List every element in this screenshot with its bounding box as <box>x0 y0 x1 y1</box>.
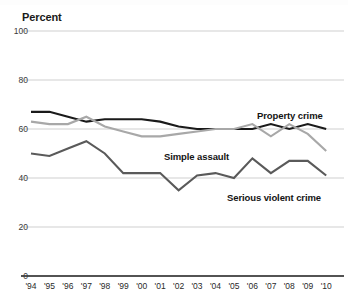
x-tick-label-08: '08 <box>279 282 299 291</box>
x-tick-label-98: '98 <box>95 282 115 291</box>
x-tick-label-05: '05 <box>224 282 244 291</box>
x-tick-label-03: '03 <box>187 282 207 291</box>
y-tick-label: 100 <box>6 27 28 36</box>
x-tick-label-94: '94 <box>21 282 41 291</box>
series-label-property-crime: Property crime <box>257 110 323 121</box>
x-tick-label-07: '07 <box>261 282 281 291</box>
series-label-simple-assault: Simple assault <box>164 151 229 162</box>
y-tick-label: 0 <box>6 272 28 281</box>
series-label-serious-violent-crime: Serious violent crime <box>227 192 321 203</box>
x-tick-label-95: '95 <box>39 282 59 291</box>
x-tick-label-02: '02 <box>169 282 189 291</box>
x-tick-label-10: '10 <box>316 282 336 291</box>
x-tick-label-09: '09 <box>298 282 318 291</box>
series-line-serious-violent-crime <box>31 141 326 190</box>
x-tick-label-99: '99 <box>113 282 133 291</box>
x-tick-label-97: '97 <box>76 282 96 291</box>
y-tick-label: 20 <box>6 223 28 232</box>
y-tick-label: 40 <box>6 174 28 183</box>
x-tick-label-00: '00 <box>132 282 152 291</box>
x-tick-label-04: '04 <box>206 282 226 291</box>
x-tick-label-06: '06 <box>242 282 262 291</box>
y-tick-label: 60 <box>6 125 28 134</box>
y-tick-label: 80 <box>6 76 28 85</box>
percent-line-chart: Percent 100806040200 '94'95'96'97'98'99'… <box>0 0 348 305</box>
x-tick-label-01: '01 <box>150 282 170 291</box>
x-tick-label-96: '96 <box>58 282 78 291</box>
